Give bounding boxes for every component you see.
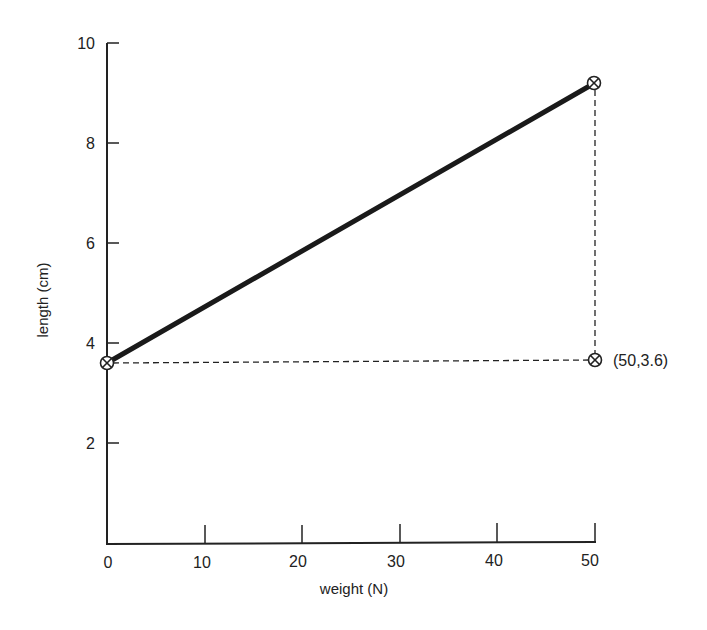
x-tick-label: 10 (193, 554, 211, 571)
marker-circled-x-icon (101, 357, 114, 370)
y-tick-label: 8 (86, 135, 95, 152)
marker-circled-x-icon (588, 77, 601, 90)
x-tick-labels: 0 10 20 30 40 50 (104, 552, 599, 571)
x-tick-label: 50 (581, 552, 599, 569)
dashed-horizontal-guide (113, 360, 589, 363)
y-axis-label: length (cm) (34, 262, 51, 337)
data-line (107, 84, 593, 363)
chart: 10 8 6 4 2 0 10 20 30 40 50 weight (N) l… (0, 0, 707, 630)
y-tick-label: 4 (86, 335, 95, 352)
y-ticks (107, 43, 119, 443)
y-tick-label: 6 (86, 235, 95, 252)
x-axis-label: weight (N) (319, 580, 388, 597)
y-tick-label: 10 (77, 35, 95, 52)
x-tick-label: 20 (289, 553, 307, 570)
marker-circled-x-icon (589, 354, 602, 367)
y-tick-labels: 10 8 6 4 2 (77, 35, 95, 452)
x-tick-label: 40 (485, 552, 503, 569)
x-axis (106, 542, 596, 544)
x-tick-label: 30 (387, 553, 405, 570)
x-tick-label: 0 (104, 554, 113, 571)
y-tick-label: 2 (86, 435, 95, 452)
x-ticks (205, 523, 595, 544)
point-annotation: (50,3.6) (613, 352, 668, 369)
